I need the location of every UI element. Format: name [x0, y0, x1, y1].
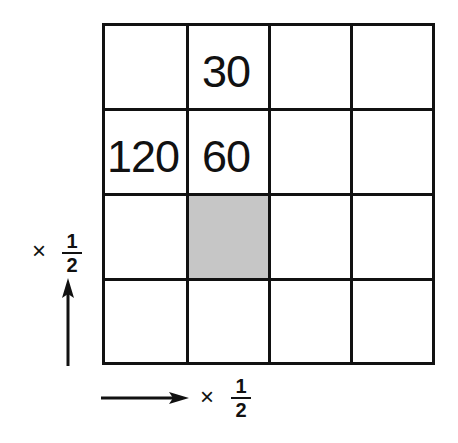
value-grid: 30 120 60	[102, 23, 435, 365]
denominator: 2	[66, 254, 77, 276]
grid-line	[102, 108, 435, 111]
fraction-one-half: 1 2	[231, 376, 251, 420]
grid-line	[102, 278, 435, 281]
cell-value: 120	[107, 134, 179, 179]
numerator: 1	[66, 230, 77, 252]
fraction-one-half: 1 2	[62, 231, 82, 275]
cell-value: 30	[202, 49, 250, 94]
times-symbol: ×	[32, 239, 46, 263]
times-symbol: ×	[200, 385, 214, 409]
numerator: 1	[235, 375, 246, 397]
shaded-cell	[187, 194, 269, 279]
grid-line	[102, 193, 435, 196]
denominator: 2	[235, 399, 246, 421]
grid-line	[102, 23, 435, 26]
arrow-right-icon	[101, 388, 191, 408]
arrow-up-icon	[58, 278, 78, 368]
cell-value: 60	[202, 134, 250, 179]
grid-line	[102, 362, 435, 365]
